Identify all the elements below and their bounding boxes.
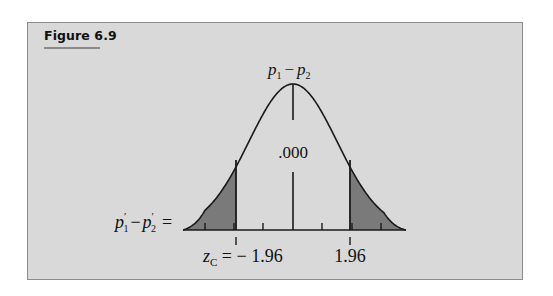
- right-rejection-region: [350, 167, 406, 230]
- right-critical-z-label: 1.96: [334, 246, 366, 266]
- normal-curve-plot: p1−p2 .000 p′1−p′2= zC = − 1.96 1.96: [0, 0, 553, 296]
- left-rejection-region: [183, 167, 236, 230]
- statistic-axis-label: p′1−p′2=: [113, 210, 172, 234]
- center-parameter-label: p1−p2: [267, 60, 311, 81]
- center-value-label: .000: [278, 143, 308, 162]
- left-critical-z-label: zC = − 1.96: [202, 246, 283, 268]
